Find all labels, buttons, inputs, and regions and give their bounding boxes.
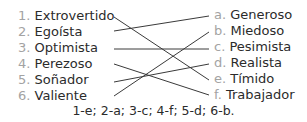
item-letter: b. <box>214 23 226 38</box>
right-item-c: c. Pesimista <box>214 39 291 55</box>
item-letter: f. <box>214 87 222 102</box>
right-item-d: d. Realista <box>214 55 282 71</box>
item-label: Miedoso <box>231 23 285 38</box>
item-letter: c. <box>214 39 225 54</box>
item-label: Realista <box>231 55 282 70</box>
match-line-2-a <box>114 16 209 31</box>
item-label: Pesimista <box>229 39 291 54</box>
item-label: Trabajador <box>226 87 295 102</box>
answer-key: 1-e; 2-a; 3-c; 4-f; 5-d; 6-b. <box>0 103 307 119</box>
right-item-b: b. Miedoso <box>214 23 284 39</box>
item-letter: e. <box>214 71 226 86</box>
item-label: Generoso <box>230 7 292 22</box>
right-item-a: a. Generoso <box>214 7 292 23</box>
right-item-f: f. Trabajador <box>214 87 295 103</box>
match-line-6-b <box>114 32 209 96</box>
item-letter: a. <box>214 7 226 22</box>
item-letter: d. <box>214 55 226 70</box>
right-item-e: e. Tímido <box>214 71 274 87</box>
item-label: Tímido <box>230 71 274 86</box>
